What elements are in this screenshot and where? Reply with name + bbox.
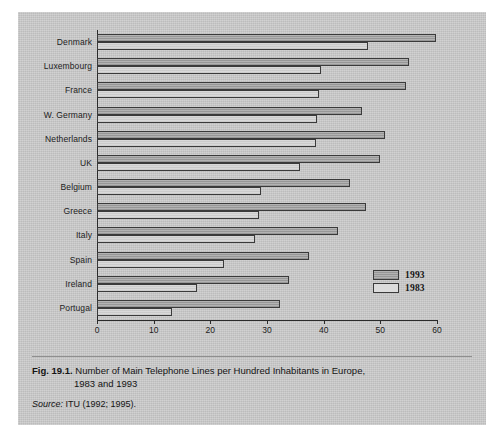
bar-1993 [97,252,309,260]
category-label: Italy [18,223,97,247]
bar-1993 [97,82,406,90]
x-axis-tick-label: 10 [149,325,158,335]
category-label: Netherlands [18,127,97,151]
bar-1983 [97,115,317,123]
x-axis-tick [324,320,325,324]
x-axis-tick [210,320,211,324]
caption-line-1: Number of Main Telephone Lines per Hundr… [75,365,365,376]
bar-group [97,54,437,78]
bar-1983 [97,42,368,50]
bar-1993 [97,107,362,115]
bar-1983 [97,211,259,219]
bar-1993 [97,203,366,211]
bar-1983 [97,66,321,74]
caption-line-2: 1983 and 1993 [74,377,474,390]
category-label: UK [18,151,97,175]
bar-1993 [97,34,436,42]
figure-number: Fig. 19.1. [32,365,73,376]
bar-1983 [97,284,197,292]
bar-1983 [97,163,300,171]
bar-group [97,103,437,127]
legend-item: 1993 [373,270,457,280]
x-axis-tick [267,320,268,324]
bar-1983 [97,235,255,243]
category-label: W. Germany [18,103,97,127]
caption-divider [32,356,472,357]
x-axis-tick-label: 40 [319,325,328,335]
caption-block: Fig. 19.1. Number of Main Telephone Line… [32,364,474,409]
bar-1983 [97,260,224,268]
chart-legend: 1993 1983 [373,270,457,296]
bar-group [97,78,437,102]
bar-1993 [97,227,338,235]
x-axis-tick-label: 60 [432,325,441,335]
bar-1983 [97,90,319,98]
x-axis-tick [97,320,98,324]
bar-group [97,248,437,272]
bar-group [97,151,437,175]
bar-1983 [97,139,316,147]
x-axis-tick [380,320,381,324]
legend-label-1983: 1983 [405,283,425,293]
category-label: Greece [18,199,97,223]
x-axis-tick-label: 20 [206,325,215,335]
bar-1983 [97,187,261,195]
x-axis-tick [154,320,155,324]
x-axis-tick [437,320,438,324]
legend-item: 1983 [373,283,457,293]
bar-1993 [97,155,380,163]
figure-source: Source: ITU (1992; 1995). [32,399,474,409]
category-label: Ireland [18,272,97,296]
bar-group [97,127,437,151]
category-label: Portugal [18,296,97,320]
figure-panel: DenmarkLuxembourgFranceW. GermanyNetherl… [18,12,486,425]
bar-1993 [97,179,350,187]
category-label: Belgium [18,175,97,199]
bar-1993 [97,276,289,284]
x-axis: 0102030405060 [97,320,437,342]
category-label: Luxembourg [18,54,97,78]
bar-group [97,223,437,247]
legend-label-1993: 1993 [405,270,425,280]
source-text: ITU (1992; 1995). [66,399,137,409]
bar-1983 [97,308,172,316]
legend-swatch-1983 [373,283,399,293]
bar-group [97,296,437,320]
x-axis-tick-label: 0 [95,325,100,335]
legend-swatch-1993 [373,270,399,280]
category-label: France [18,78,97,102]
category-label: Spain [18,248,97,272]
category-axis-labels: DenmarkLuxembourgFranceW. GermanyNetherl… [18,30,97,320]
source-label: Source: [32,399,63,409]
bar-1993 [97,58,409,66]
bar-1993 [97,131,385,139]
x-axis-tick-label: 50 [376,325,385,335]
figure-caption: Fig. 19.1. Number of Main Telephone Line… [32,364,474,390]
bar-group [97,175,437,199]
bar-1993 [97,300,280,308]
category-label: Denmark [18,30,97,54]
bar-group [97,199,437,223]
x-axis-tick-label: 30 [262,325,271,335]
bar-group [97,30,437,54]
